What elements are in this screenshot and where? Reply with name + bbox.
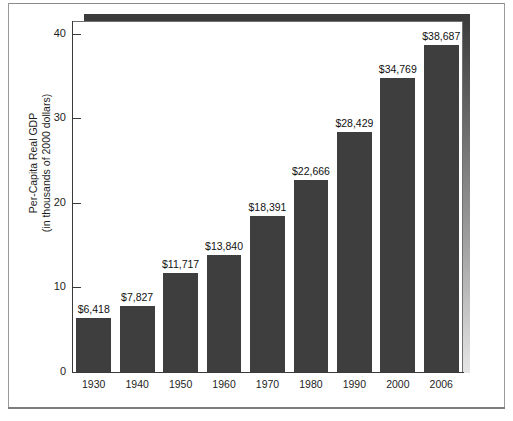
page-rule-bottom [8, 407, 505, 409]
bar-value-label: $7,827 [115, 292, 158, 303]
bar-value-label: $22,666 [289, 166, 332, 177]
bar[interactable] [424, 45, 459, 372]
y-axis-tick-label-wrap: 30 [0, 112, 66, 113]
bar-value-label: $28,429 [333, 118, 376, 129]
figure-container: Per-Capita Real GDP (in thousands of 200… [0, 0, 513, 421]
y-axis-tick [72, 118, 81, 119]
page-rule-left [8, 3, 9, 408]
bar-value-label: $38,687 [420, 31, 463, 42]
x-axis-tick-label: 1950 [159, 379, 202, 390]
y-axis-tick-label-wrap: 0 [0, 366, 66, 367]
bar-value-label: $11,717 [159, 259, 202, 270]
y-axis-line [72, 21, 73, 373]
plot-shadow-right [463, 14, 470, 373]
x-axis-tick-label: 1930 [72, 379, 115, 390]
plot-shadow-top [84, 14, 470, 21]
x-axis-tick-label: 1970 [246, 379, 289, 390]
y-axis-tick [72, 203, 81, 204]
y-axis-tick [72, 287, 81, 288]
bar[interactable] [120, 306, 155, 372]
page-rule-right [504, 3, 505, 408]
page-rule-top [8, 3, 505, 4]
bar[interactable] [250, 216, 285, 372]
x-axis-tick-label: 2000 [376, 379, 419, 390]
y-axis-tick-label: 20 [18, 197, 66, 208]
bar[interactable] [380, 78, 415, 372]
y-axis-tick-label: 40 [18, 28, 66, 39]
y-axis-tick-label-wrap: 20 [0, 197, 66, 198]
x-axis-line [72, 372, 464, 373]
y-axis-title: Per-Capita Real GDP (in thousands of 200… [27, 53, 53, 273]
bar[interactable] [337, 132, 372, 372]
bar-value-label: $34,769 [376, 64, 419, 75]
bar-value-label: $13,840 [202, 241, 245, 252]
x-axis-tick-label: 2006 [420, 379, 463, 390]
y-axis-title-line2: (in thousands of 2000 dollars) [40, 53, 53, 273]
x-axis-tick-label: 1990 [333, 379, 376, 390]
x-axis-tick-label: 1960 [202, 379, 245, 390]
x-axis-tick-label: 1980 [289, 379, 332, 390]
bar-value-label: $18,391 [246, 202, 289, 213]
y-axis-tick-label: 0 [18, 366, 66, 377]
y-axis-title-line1: Per-Capita Real GDP [27, 53, 40, 273]
bar[interactable] [163, 273, 198, 372]
y-axis-tick-label: 30 [18, 112, 66, 123]
x-axis-tick-label: 1940 [115, 379, 158, 390]
bar[interactable] [294, 180, 329, 372]
y-axis-tick-label-wrap: 40 [0, 28, 66, 29]
bar[interactable] [207, 255, 242, 372]
y-axis-tick-label: 10 [18, 281, 66, 292]
y-axis-tick [72, 34, 81, 35]
bar-value-label: $6,418 [72, 304, 115, 315]
y-axis-tick [72, 372, 81, 373]
y-axis-tick-label-wrap: 10 [0, 281, 66, 282]
bar[interactable] [76, 318, 111, 372]
